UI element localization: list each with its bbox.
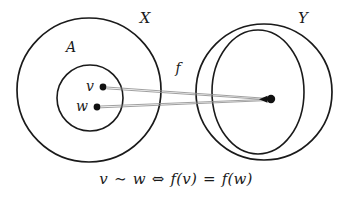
caption-equals-symbol: =	[202, 170, 217, 188]
caption-image-right: f(w)	[222, 170, 253, 188]
figure-root: X A f Y v w v ∼ w ⇔ f(v) = f(w)	[0, 0, 352, 205]
label-subset-a: A	[64, 39, 76, 55]
map-line-w-to-image-lower	[101, 101, 267, 108]
fiber-ellipse-y	[212, 30, 304, 154]
point-dot-v	[100, 84, 107, 91]
point-dot-image	[267, 95, 275, 103]
label-map-f: f	[174, 60, 183, 76]
caption-image-left: f(v)	[171, 170, 198, 188]
label-codomain-set-y: Y	[298, 9, 310, 27]
label-domain-set-x: X	[139, 9, 152, 27]
label-point-v: v	[86, 78, 94, 94]
point-dot-w	[94, 104, 101, 111]
map-line-v-to-image-lower	[107, 89, 267, 100]
caption-equivalence-relation: v ∼ w ⇔ f(v) = f(w)	[0, 170, 352, 188]
map-line-v-to-image	[107, 87, 267, 98]
arrow-head-icon	[259, 96, 268, 103]
map-line-w-to-image	[101, 99, 267, 106]
subset-circle-a	[57, 65, 123, 131]
caption-relation-symbol: ∼	[113, 170, 128, 188]
caption-iff-symbol: ⇔	[151, 170, 166, 188]
codomain-set-circle-y	[196, 24, 332, 160]
caption-left-element: v	[99, 170, 108, 188]
caption-right-element: w	[133, 170, 146, 188]
label-point-w: w	[76, 98, 88, 114]
